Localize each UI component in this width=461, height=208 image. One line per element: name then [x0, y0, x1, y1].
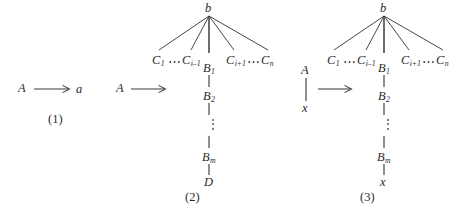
panel2-root-node: b: [205, 2, 211, 15]
panel3-caption: (3): [360, 190, 375, 205]
panel2-chain-node-bm-base: B: [202, 150, 210, 164]
figure-canvas: A a (1) A b C1 ⋯ Ci–1 B1 Ci+1 ⋯ Cn B2 ⋮ …: [0, 0, 461, 208]
panel2-ellipsis-right: ⋯: [247, 54, 261, 70]
panel2-child-center-base: B: [203, 61, 211, 75]
panel2-child-first-subscript: 1: [161, 59, 165, 68]
panel3-child-left-last: Ci–1: [357, 54, 375, 67]
panel2-vertical-ellipsis: ⋮: [207, 118, 219, 130]
panel3-child-last-subscript: n: [445, 59, 449, 68]
panel2-child-first: C1: [152, 54, 164, 67]
panel2-chain-node-b2: B2: [203, 90, 215, 103]
panel1-lhs-symbol: A: [18, 82, 26, 95]
panel3-ellipsis-right: ⋯: [422, 54, 436, 70]
panel3-tree-branches: [334, 16, 443, 53]
panel3-chain-node-b2-subscript: 2: [386, 95, 390, 104]
panel2-lhs-symbol: A: [116, 82, 124, 95]
panel2-child-first-base: C: [152, 53, 160, 67]
panel2-chain-node-bm-subscript: m: [210, 156, 216, 165]
panel3-child-first-base: C: [327, 53, 335, 67]
panel2-terminal-node: D: [204, 176, 213, 189]
panel3-chain-node-bm: Bm: [377, 151, 390, 164]
panel2-arrow-group: [131, 85, 166, 92]
panel3-terminal-node: x: [380, 176, 386, 189]
panel3-chain-node-bm-subscript: m: [385, 156, 391, 165]
panel2-child-left-last-base: C: [182, 53, 190, 67]
panel2-child-last: Cn: [261, 54, 273, 67]
panel3-child-left-last-subscript: i–1: [366, 59, 376, 68]
panel2-ellipsis-left: ⋯: [168, 54, 182, 70]
panel3-lhs-symbol: A: [301, 64, 309, 77]
panel3-child-center: B1: [378, 62, 390, 75]
panel3-child-center-base: B: [378, 61, 386, 75]
panel1-arrow-group: [34, 85, 70, 92]
panel3-chain-node-b2: B2: [378, 90, 390, 103]
panel3-ellipsis-left: ⋯: [343, 54, 357, 70]
panel2-chain-node-b2-subscript: 2: [211, 95, 215, 104]
panel3-child-right-first-base: C: [401, 53, 409, 67]
panel2-child-left-last-subscript: i–1: [191, 59, 201, 68]
diagram-line-layer: [0, 0, 461, 208]
panel2-child-last-subscript: n: [270, 59, 274, 68]
panel2-chain-node-b2-base: B: [203, 89, 211, 103]
panel2-child-left-last: Ci–1: [182, 54, 200, 67]
panel3-child-center-subscript: 1: [386, 67, 390, 76]
panel2-child-center: B1: [203, 62, 215, 75]
panel3-child-last: Cn: [436, 54, 448, 67]
panel3-child-left-last-base: C: [357, 53, 365, 67]
panel2-child-center-subscript: 1: [211, 67, 215, 76]
panel3-child-right-first-subscript: i+1: [410, 59, 421, 68]
panel1-caption: (1): [48, 112, 63, 127]
panel2-caption: (2): [185, 190, 200, 205]
panel3-chain-node-bm-base: B: [377, 150, 385, 164]
panel2-child-right-first-subscript: i+1: [235, 59, 246, 68]
panel3-arrow-group: [318, 85, 352, 92]
panel2-child-last-base: C: [261, 53, 269, 67]
panel2-chain-node-bm: Bm: [202, 151, 215, 164]
panel3-chain-node-b2-base: B: [378, 89, 386, 103]
panel3-vertical-ellipsis: ⋮: [382, 118, 394, 130]
panel3-child-right-first: Ci+1: [401, 54, 421, 67]
panel2-tree-branches: [159, 16, 268, 53]
panel1-rhs-symbol: a: [76, 83, 82, 96]
panel3-lhs-child-symbol: x: [302, 102, 308, 115]
panel2-child-right-first-base: C: [226, 53, 234, 67]
panel3-child-last-base: C: [436, 53, 444, 67]
panel3-child-first: C1: [327, 54, 339, 67]
panel2-child-right-first: Ci+1: [226, 54, 246, 67]
panel3-root-node: b: [380, 2, 386, 15]
panel3-child-first-subscript: 1: [336, 59, 340, 68]
